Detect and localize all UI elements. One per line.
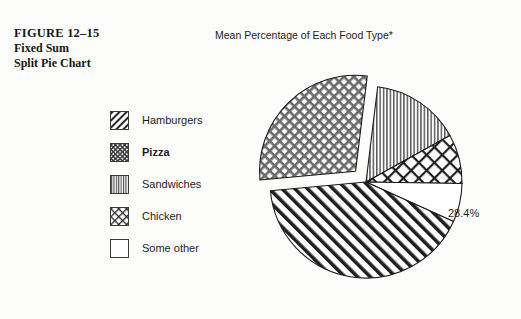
pie-slice-pizza[interactable]	[260, 75, 368, 180]
legend-item-some-other: Some other	[110, 232, 240, 264]
pie-chart: 15.0% 8.3% 6.5% 41.8% 28.4%	[240, 60, 521, 305]
figure-number: FIGURE 12–15	[14, 26, 164, 41]
pie-chart-svg	[240, 60, 521, 305]
figure-caption-line-1: Fixed Sum	[14, 41, 164, 56]
legend-label-hamburgers: Hamburgers	[142, 114, 203, 126]
legend-item-hamburgers: Hamburgers	[110, 104, 240, 136]
legend-swatch-diagonal-crosshatch-icon	[110, 207, 129, 226]
chart-legend: Hamburgers Pizza	[110, 104, 240, 264]
legend-swatch-vertical-lines-icon	[110, 175, 129, 194]
figure-caption: FIGURE 12–15 Fixed Sum Split Pie Chart	[14, 26, 164, 71]
legend-label-sandwiches: Sandwiches	[142, 178, 201, 190]
legend-label-chicken: Chicken	[142, 210, 182, 222]
pie-label-pizza: 28.4%	[448, 207, 479, 219]
legend-item-pizza: Pizza	[110, 136, 240, 168]
legend-label-some-other: Some other	[142, 242, 199, 254]
chart-title: Mean Percentage of Each Food Type*	[215, 29, 393, 41]
legend-swatch-solid-white-icon	[110, 239, 129, 258]
legend-label-pizza: Pizza	[142, 146, 170, 158]
legend-item-chicken: Chicken	[110, 200, 240, 232]
legend-swatch-dense-crosshatch-icon	[110, 143, 129, 162]
legend-item-sandwiches: Sandwiches	[110, 168, 240, 200]
pie-slices	[260, 75, 462, 278]
figure-page: FIGURE 12–15 Fixed Sum Split Pie Chart H…	[0, 0, 521, 319]
legend-swatch-diagonal-stripes-icon	[110, 111, 129, 130]
figure-caption-line-2: Split Pie Chart	[14, 56, 164, 71]
